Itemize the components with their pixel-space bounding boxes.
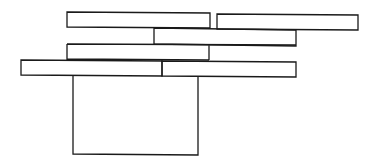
row-3 — [67, 44, 296, 60]
bar-row2 — [154, 28, 296, 46]
base — [73, 75, 198, 155]
bar-row1-left — [67, 12, 210, 28]
row-1 — [67, 12, 358, 30]
bar-row1-right — [217, 14, 358, 30]
row-4 — [21, 60, 296, 77]
bar-row4-left — [21, 60, 162, 76]
base-block — [73, 75, 198, 155]
bar-row3 — [67, 44, 296, 60]
row-2 — [154, 28, 296, 46]
stacked-bars-diagram — [0, 0, 376, 167]
bar-row4-right — [162, 61, 296, 77]
